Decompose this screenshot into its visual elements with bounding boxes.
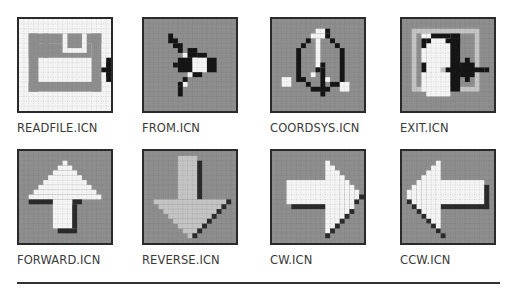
readfile-icon[interactable]	[17, 17, 113, 113]
cw-icon[interactable]	[270, 149, 366, 245]
coordsys-icon[interactable]	[270, 17, 366, 113]
from-icon[interactable]	[142, 17, 238, 113]
exit-icon[interactable]	[400, 17, 496, 113]
horizontal-rule	[17, 282, 500, 284]
icon-filename-label: CW.ICN	[270, 253, 312, 267]
icon-filename-label: REVERSE.ICN	[142, 253, 220, 267]
icon-filename-label: READFILE.ICN	[17, 121, 98, 135]
icon-filename-label: CCW.ICN	[400, 253, 451, 267]
ccw-icon[interactable]	[400, 149, 496, 245]
icon-filename-label: EXIT.ICN	[400, 121, 449, 135]
forward-icon[interactable]	[17, 149, 113, 245]
icon-filename-label: FROM.ICN	[142, 121, 200, 135]
icon-filename-label: FORWARD.ICN	[17, 253, 100, 267]
icon-filename-label: COORDSYS.ICN	[270, 121, 359, 135]
reverse-icon[interactable]	[142, 149, 238, 245]
